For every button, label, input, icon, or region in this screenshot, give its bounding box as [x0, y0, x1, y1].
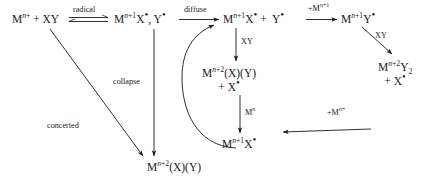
species-metal-xy-plus-x-radical: Mn+2(X)(Y)+ X• — [202, 66, 256, 94]
arrow-label-metal-n: Mn — [245, 108, 255, 117]
species-metal-y-radical: Mn+1Y• — [341, 12, 375, 26]
equilibrium-arrow — [69, 18, 108, 22]
species-product: Mn+2(X)(Y) — [147, 160, 201, 174]
arrow-label-collapse: collapse — [113, 77, 140, 86]
species-metal-x-radical-bottom: Mn+1X• — [222, 137, 256, 151]
arrow-label-xy-right: XY — [375, 31, 387, 40]
species-radical-pair: Mn+1X•, Y• — [114, 12, 166, 26]
concerted-arrow — [50, 29, 143, 156]
arrow-label-add-metal-n: +Mn+ — [327, 108, 345, 117]
species-metal-y2-plus-x-radical: Mn+2Y2+ X• — [378, 60, 412, 88]
species-reactants: Mn+ + XY — [12, 12, 59, 26]
reaction-mechanism-diagram: Mn+ + XY Mn+1X•, Y• Mn+1X• + Y• Mn+1Y• M… — [0, 0, 442, 185]
add-metal-n-arrow — [283, 129, 371, 132]
arrow-label-add-metal-n1: +Mn+1 — [308, 4, 329, 13]
arrow-label-diffuse: diffuse — [184, 5, 207, 14]
arrow-label-xy-center: XY — [241, 37, 253, 46]
species-free-radicals: Mn+1X• + Y• — [223, 12, 284, 26]
arrow-label-concerted: concerted — [47, 121, 79, 130]
arrow-label-radical: radical — [73, 5, 95, 14]
